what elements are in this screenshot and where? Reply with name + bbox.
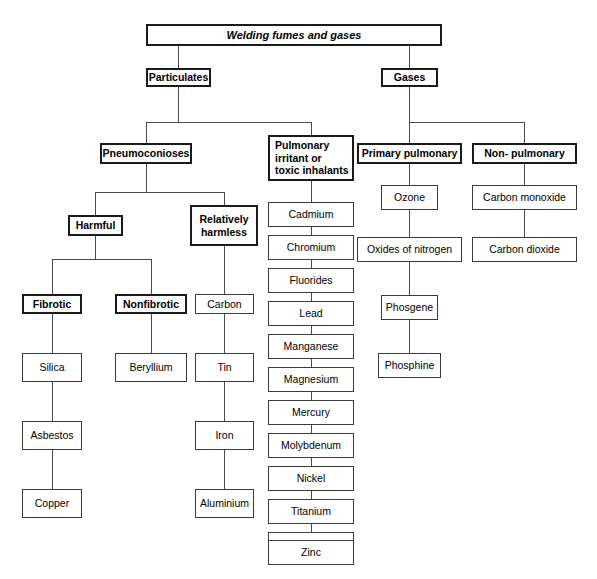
connector-phosgene-to-phosphine: [409, 320, 410, 353]
connector-to-relatively-harmless: [224, 192, 225, 205]
connector-irritant-1: [311, 227, 312, 235]
connector-irritant-0: [311, 181, 312, 202]
connector-irritant-5: [311, 359, 312, 367]
node-beryllium[interactable]: Beryllium: [115, 353, 187, 382]
connector-oxides-to-phosgene: [409, 262, 410, 295]
node-phosphine[interactable]: Phosphine: [378, 353, 441, 378]
connector-silica-to-asbestos: [52, 382, 53, 421]
node-fluorides[interactable]: Fluorides: [268, 268, 354, 293]
connector-root-to-gases: [409, 46, 410, 68]
connector-nonfibrotic-to-beryllium: [151, 314, 152, 353]
node-fibrotic[interactable]: Fibrotic: [22, 294, 82, 314]
node-pneumoconioses[interactable]: Pneumoconioses: [100, 143, 192, 164]
connector-asbestos-to-copper: [52, 450, 53, 489]
connector-pneumoconioses-down: [146, 164, 147, 192]
connector-harmful-down: [95, 236, 96, 259]
connector-irritant-6: [311, 392, 312, 400]
connector-nonpulm-to-co: [524, 164, 525, 185]
node-pulmonary-irritant-or-toxic-inhalants[interactable]: Pulmonary irritant or toxic inhalants: [268, 135, 354, 181]
node-aluminium[interactable]: Aluminium: [195, 489, 254, 518]
node-lead[interactable]: Lead: [268, 301, 354, 326]
connector-tin-to-iron: [224, 382, 225, 421]
connector-to-non-pulmonary: [524, 122, 525, 143]
connector-to-primary-pulmonary: [409, 122, 410, 143]
node-oxides-of-nitrogen[interactable]: Oxides of nitrogen: [357, 237, 462, 262]
node-titanium[interactable]: Titanium: [268, 499, 354, 524]
node-nickel[interactable]: Nickel: [268, 466, 354, 491]
connector-gases-down: [409, 87, 410, 122]
connector-particulates-down: [178, 87, 179, 122]
connector-irritant-4: [311, 326, 312, 334]
connector-irritant-8: [311, 458, 312, 466]
connector-primary-to-ozone: [409, 164, 410, 185]
node-cadmium[interactable]: Cadmium: [268, 202, 354, 227]
node-harmful[interactable]: Harmful: [68, 215, 123, 236]
node-carbon-monoxide[interactable]: Carbon monoxide: [472, 185, 577, 210]
connector-pneumoconioses-split: [95, 192, 224, 193]
connector-fibrotic-to-silica: [52, 314, 53, 353]
node-manganese[interactable]: Manganese: [268, 334, 354, 359]
connector-carbon-to-tin: [224, 314, 225, 353]
connector-particulates-split: [146, 122, 311, 123]
connector-irritant-9: [311, 491, 312, 499]
connector-iron-to-aluminium: [224, 450, 225, 489]
node-chromium[interactable]: Chromium: [268, 235, 354, 260]
connector-irritant-3: [311, 293, 312, 301]
connector-gases-split: [409, 122, 524, 123]
connector-root-to-particulates: [178, 46, 179, 68]
node-mercury[interactable]: Mercury: [268, 400, 354, 425]
node-relatively-harmless[interactable]: Relatively harmless: [190, 205, 258, 246]
node-copper[interactable]: Copper: [22, 489, 82, 518]
connector-co-to-co2: [524, 210, 525, 237]
flowchart-canvas: Welding fumes and gases Particulates Gas…: [0, 0, 597, 579]
connector-to-nonfibrotic: [151, 259, 152, 294]
node-primary-pulmonary[interactable]: Primary pulmonary: [357, 143, 462, 164]
connector-irritant-7: [311, 425, 312, 433]
connector-irritant-2: [311, 260, 312, 268]
connector-relatively-harmless-to-carbon: [224, 246, 225, 294]
connector-to-pneumoconioses: [146, 122, 147, 143]
node-gases[interactable]: Gases: [381, 68, 438, 87]
connector-to-fibrotic: [52, 259, 53, 294]
node-phosgene[interactable]: Phosgene: [381, 295, 438, 320]
connector-to-pulmonary-irritant: [311, 122, 312, 135]
connector-to-harmful: [95, 192, 96, 215]
connector-irritant-10: [311, 524, 312, 532]
node-asbestos[interactable]: Asbestos: [22, 421, 82, 450]
node-ozone[interactable]: Ozone: [381, 185, 438, 210]
node-nonfibrotic[interactable]: Nonfibrotic: [115, 294, 187, 314]
connector-ozone-to-oxides: [409, 210, 410, 237]
node-carbon-dioxide[interactable]: Carbon dioxide: [472, 237, 577, 262]
node-tin[interactable]: Tin: [195, 353, 254, 382]
node-particulates[interactable]: Particulates: [146, 68, 211, 87]
root-node-welding-fumes-and-gases[interactable]: Welding fumes and gases: [146, 24, 442, 46]
node-iron[interactable]: Iron: [195, 421, 254, 450]
node-magnesium[interactable]: Magnesium: [268, 367, 354, 392]
connector-harmful-split: [52, 259, 151, 260]
node-carbon[interactable]: Carbon: [195, 294, 254, 314]
node-silica[interactable]: Silica: [22, 353, 82, 382]
node-molybdenum[interactable]: Molybdenum: [268, 433, 354, 458]
node-non-pulmonary[interactable]: Non- pulmonary: [472, 143, 577, 164]
node-zinc[interactable]: Zinc: [268, 540, 354, 565]
